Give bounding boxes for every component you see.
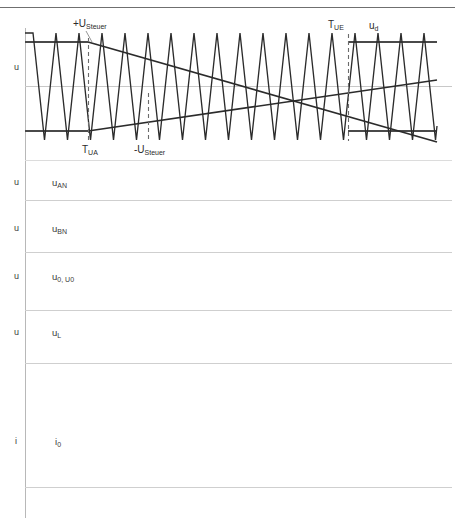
axis-label-u0: u <box>14 272 19 281</box>
signal-label-u-an-sub: AN <box>57 182 67 189</box>
axis-label-i0: i <box>15 437 17 446</box>
label-u-d: ud <box>369 21 378 32</box>
signal-label-i0: i0 <box>55 437 61 448</box>
signal-label-u-bn-sub: BN <box>57 228 67 235</box>
signal-label-i0-sub: 0 <box>57 441 61 448</box>
signal-label-u-l-sub: L <box>57 332 61 339</box>
label-neg-steuer-sub: Steuer <box>145 149 166 156</box>
label-t-ue-sub: UE <box>334 24 344 31</box>
label-t-ue: TUE <box>328 20 344 31</box>
label-pos-steuer-main: +U <box>73 18 86 29</box>
signal-label-u0-sub: 0, U <box>57 276 70 283</box>
signal-label-u0-U0: u0, U0 <box>52 272 74 283</box>
panel-dividers <box>25 201 452 488</box>
axis-label-u-bn: u <box>14 224 19 233</box>
diagram-canvas: u +USteuer TUA -USteuer TUE ud u uAN u u… <box>0 0 455 529</box>
label-t-ua-sub: UA <box>88 149 98 156</box>
axis-label-u-top: u <box>14 63 19 72</box>
diagram-svg <box>0 0 455 529</box>
label-neg-steuer: -USteuer <box>134 145 165 156</box>
signal-label-u-an: uAN <box>52 178 67 189</box>
axis-label-u-an: u <box>14 178 19 187</box>
signal-label-U0-sub: 0 <box>70 276 74 283</box>
signal-label-u-bn: uBN <box>52 224 67 235</box>
label-t-ua: TUA <box>82 145 98 156</box>
label-u-d-sub: d <box>375 25 379 32</box>
label-pos-steuer-sub: Steuer <box>86 23 107 30</box>
label-neg-steuer-main: -U <box>134 144 145 155</box>
signal-label-u-l: uL <box>52 328 61 339</box>
label-pos-steuer: +USteuer <box>73 19 107 30</box>
axis-label-u-l: u <box>14 328 19 337</box>
